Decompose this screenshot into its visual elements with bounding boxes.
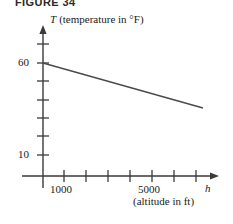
x-axis-caption: (altitude in ft) <box>133 195 194 207</box>
x-tick-label-5000: 5000 <box>138 183 160 195</box>
y-tick-label-10: 10 <box>18 148 29 160</box>
y-axis-symbol: T <box>50 13 56 25</box>
y-axis-title: T(temperature in °F) <box>50 13 144 25</box>
x-axis <box>22 172 219 179</box>
coordinate-plot <box>0 0 233 224</box>
x-axis-symbol: h <box>205 182 211 194</box>
y-axis-caption: (temperature in °F) <box>59 13 143 25</box>
y-tick-label-60: 60 <box>18 56 29 68</box>
figure-container: FIGURE 34 <box>0 0 233 224</box>
y-axis <box>39 25 46 188</box>
data-line-series <box>43 63 203 108</box>
x-tick-label-1000: 1000 <box>50 183 72 195</box>
